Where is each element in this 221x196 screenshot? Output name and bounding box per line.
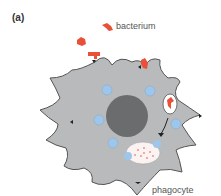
nucleus — [106, 95, 148, 137]
phagocytosis-diagram — [0, 0, 221, 196]
